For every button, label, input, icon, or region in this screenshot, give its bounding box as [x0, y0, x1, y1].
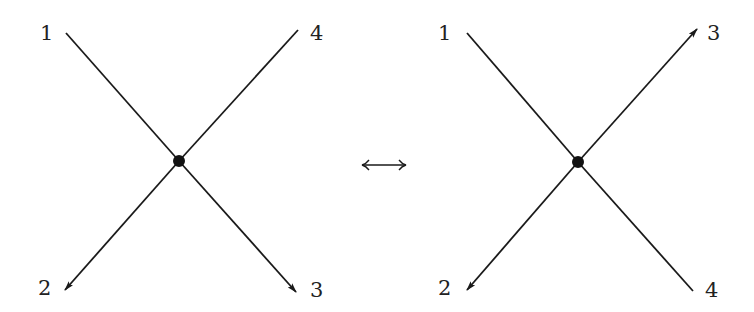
right-diagram: 1 2 3 4 [438, 21, 720, 302]
left-leg-3-arrow [179, 161, 296, 292]
left-vertex-dot [173, 155, 185, 167]
right-label-3: 3 [707, 21, 720, 45]
double-arrow-icon [362, 160, 406, 170]
left-label-2: 2 [38, 276, 51, 300]
right-label-4: 4 [705, 278, 718, 302]
right-leg-4 [578, 162, 693, 291]
right-leg-3-arrow [578, 29, 697, 162]
right-leg-1 [467, 33, 578, 162]
right-leg-2-arrow [467, 162, 578, 290]
left-diagram: 1 2 3 4 [38, 21, 323, 302]
right-label-2: 2 [438, 276, 451, 300]
right-label-1: 1 [438, 21, 451, 45]
vertex-diagram: 1 2 3 4 1 2 3 4 [0, 0, 754, 312]
left-label-3: 3 [310, 278, 323, 302]
left-label-4: 4 [310, 21, 323, 45]
left-leg-2-arrow [65, 161, 179, 290]
right-vertex-dot [572, 156, 584, 168]
left-leg-4 [179, 30, 298, 161]
left-leg-1 [66, 33, 179, 161]
left-label-1: 1 [40, 21, 53, 45]
